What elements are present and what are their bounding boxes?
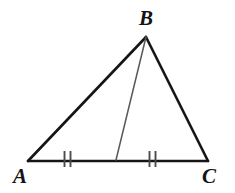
geometry-figure: A B C [0, 0, 235, 193]
triangle-diagram-canvas [0, 0, 235, 193]
vertex-label-b: B [139, 8, 153, 29]
vertex-label-a: A [13, 166, 27, 187]
segment-median-bd [116, 37, 146, 160]
tick-group-dc [150, 151, 156, 167]
vertex-label-c: C [202, 166, 216, 187]
segment-bc [146, 37, 208, 161]
tick-group-ad [65, 151, 71, 167]
segment-ab [28, 37, 146, 161]
